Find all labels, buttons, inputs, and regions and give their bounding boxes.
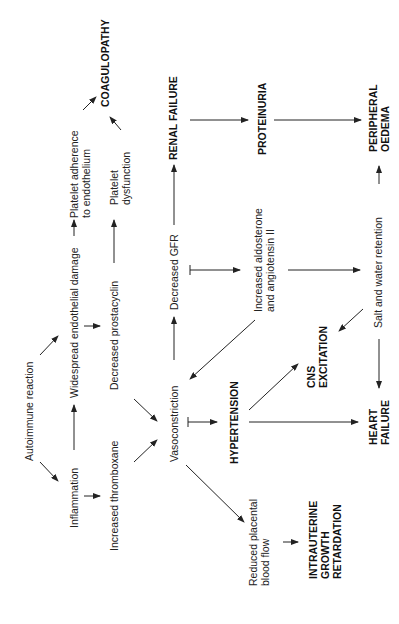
node-platelet-adherence: Platelet adherence to endothelium: [68, 130, 92, 218]
iugr-label-2: GROWTH: [319, 531, 331, 579]
node-platelet-dysfunction: Platelet dysfunction: [108, 152, 132, 205]
node-proteinuria: PROTEINURIA: [256, 82, 268, 155]
arrow-thromboxane-vasoconstriction: [134, 440, 157, 462]
endothelial-label: Widespread endothelial damage: [68, 247, 80, 398]
adherence-label-1: Platelet adherence: [68, 130, 80, 218]
arrow-autoimmune-endothelial: [40, 336, 58, 355]
salt-water-label: Salt and water retention: [372, 217, 384, 328]
autoimmune-label: Autoimmune reaction: [23, 362, 35, 461]
placental-label-2: blood flow: [259, 538, 271, 586]
hypertension-label: HYPERTENSION: [228, 381, 240, 464]
node-hypertension: HYPERTENSION: [228, 381, 240, 464]
heart-label-1: HEART: [367, 408, 379, 445]
arrow-aldosterone-vasoconstriction: [190, 320, 255, 379]
node-inflammation: Inflammation: [68, 468, 80, 528]
node-gfr: Decreased GFR: [168, 234, 180, 310]
diagram-svg: Autoimmune reaction Inflammation Widespr…: [0, 0, 399, 624]
arrow-salt-cns: [339, 309, 363, 331]
node-vasoconstriction: Vasoconstriction: [168, 386, 180, 462]
arrow-prostacyclin-vasoconstriction: [134, 399, 157, 421]
node-peripheral-oedema: PERIPHERAL OEDEMA: [367, 84, 391, 152]
thromboxane-label: Increased thromboxane: [108, 441, 120, 551]
node-cns-excitation: CNS EXCITATION: [305, 326, 329, 388]
prostacyclin-label: Decreased prostacyclin: [108, 281, 120, 390]
vasoconstriction-label: Vasoconstriction: [168, 386, 180, 462]
proteinuria-label: PROTEINURIA: [256, 82, 268, 155]
gfr-label: Decreased GFR: [168, 234, 180, 310]
placental-label-1: Reduced placental: [247, 499, 259, 586]
aldosterone-label-1: Increased aldosterone: [252, 208, 264, 312]
node-salt-water: Salt and water retention: [372, 217, 384, 328]
arrow-vasoconstriction-placental: [186, 465, 244, 522]
coagulopathy-label: COAGULOPATHY: [99, 19, 111, 107]
node-prostacyclin: Decreased prostacyclin: [108, 281, 120, 390]
dysfunction-label-2: dysfunction: [120, 152, 132, 205]
dysfunction-label-1: Platelet: [108, 170, 120, 205]
aldosterone-label-2: and angiotensin II: [264, 229, 276, 312]
node-thromboxane: Increased thromboxane: [108, 441, 120, 551]
iugr-label-1: INTRAUTERINE: [307, 501, 319, 579]
iugr-label-3: RETARDATION: [331, 504, 343, 579]
node-iugr: INTRAUTERINE GROWTH RETARDATION: [307, 501, 343, 579]
pathophysiology-diagram: Autoimmune reaction Inflammation Widespr…: [0, 0, 399, 624]
node-aldosterone: Increased aldosterone and angiotensin II: [252, 208, 276, 312]
peripheral-label-2: OEDEMA: [379, 105, 391, 152]
arrow-autoimmune-inflammation: [40, 462, 58, 481]
inflammation-label: Inflammation: [68, 468, 80, 528]
cns-label-1: CNS: [305, 366, 317, 388]
node-coagulopathy: COAGULOPATHY: [99, 19, 111, 107]
arrow-adherence-coagulopathy: [83, 97, 96, 110]
renal-failure-label: RENAL FAILURE: [167, 76, 179, 160]
node-autoimmune: Autoimmune reaction: [23, 362, 35, 461]
heart-label-2: FAILURE: [379, 400, 391, 445]
adherence-label-2: to endothelium: [80, 149, 92, 218]
node-endothelial: Widespread endothelial damage: [68, 247, 80, 398]
arrow-dysfunction-coagulopathy: [110, 117, 121, 130]
cns-label-2: EXCITATION: [317, 326, 329, 388]
arrow-hypertension-cns: [249, 364, 298, 410]
peripheral-label-1: PERIPHERAL: [367, 84, 379, 152]
node-heart-failure: HEART FAILURE: [367, 400, 391, 445]
node-placental: Reduced placental blood flow: [247, 499, 271, 586]
node-renal-failure: RENAL FAILURE: [167, 76, 179, 160]
